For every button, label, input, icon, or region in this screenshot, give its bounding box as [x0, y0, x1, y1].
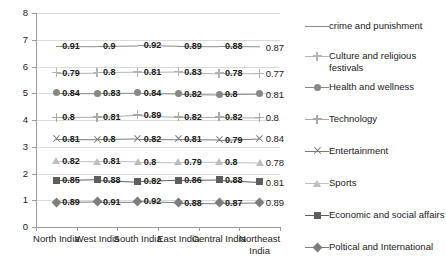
legend-label: Culture and religious festivals — [329, 50, 446, 73]
y-tick-label: 0 — [6, 222, 28, 232]
legend-label: Technology — [329, 113, 377, 125]
legend-key-swatch — [305, 82, 329, 93]
legend-key-swatch — [305, 242, 329, 253]
legend-key-swatch — [305, 114, 329, 125]
legend-item[interactable]: Technology — [305, 113, 377, 125]
legend-item[interactable]: Entertainment — [305, 145, 388, 157]
legend-item[interactable]: Economic and social affairs — [305, 209, 444, 221]
legend-key-swatch — [305, 178, 329, 189]
diamond-marker-icon — [255, 197, 265, 207]
y-tick-label: 1 — [6, 195, 28, 205]
diamond-marker-icon — [173, 198, 183, 208]
legend-key-swatch — [305, 210, 329, 221]
plus-marker-icon — [314, 53, 321, 60]
x-tick-mark — [158, 227, 159, 231]
plus-marker-icon — [314, 116, 321, 123]
diamond-marker-icon — [133, 197, 143, 207]
x-tick-mark — [239, 227, 240, 231]
chart-legend: crime and punishmentCulture and religiou… — [305, 6, 446, 271]
triangle-marker-icon — [313, 180, 321, 187]
diamond-marker-icon — [214, 198, 224, 208]
y-tick-label: 2 — [6, 169, 28, 179]
legend-key-swatch — [305, 51, 329, 62]
legend-item[interactable]: Culture and religious festivals — [305, 50, 446, 73]
legend-label: crime and punishment — [329, 20, 422, 32]
x-tick-label: Northeast India — [232, 233, 288, 256]
data-label: 0.91 — [103, 198, 121, 207]
legend-item[interactable]: Sports — [305, 177, 356, 189]
legend-item[interactable]: Health and wellness — [305, 81, 414, 93]
legend-item[interactable]: Poltical and International — [305, 241, 433, 253]
data-label: 0.89 — [62, 198, 80, 207]
circle-marker-icon — [314, 84, 321, 91]
legend-label: Entertainment — [329, 145, 388, 157]
legend-label: Economic and social affairs — [329, 209, 444, 221]
data-label: 0.89 — [266, 198, 285, 207]
y-tick-label: 8 — [6, 8, 28, 18]
x-tick-mark — [117, 227, 118, 231]
y-tick-label: 4 — [6, 115, 28, 125]
data-label: 0.88 — [184, 199, 202, 208]
square-marker-icon — [314, 212, 321, 219]
legend-item[interactable]: crime and punishment — [305, 20, 422, 32]
legend-key-swatch — [305, 146, 329, 157]
series-line: 0.890.910.920.880.870.89 — [36, 13, 280, 227]
legend-label: Health and wellness — [329, 81, 414, 93]
y-tick-label: 7 — [6, 35, 28, 45]
plot-area: 0.910.90.920.890.880.870.790.80.810.830.… — [36, 13, 280, 227]
y-tick-label: 6 — [6, 62, 28, 72]
x-tick-mark — [77, 227, 78, 231]
data-label: 0.87 — [225, 199, 243, 208]
x-tick-mark — [199, 227, 200, 231]
diamond-marker-icon — [312, 242, 322, 252]
diamond-marker-icon — [51, 197, 61, 207]
y-tick-label: 3 — [6, 142, 28, 152]
x-tick-mark — [36, 227, 37, 231]
legend-key-swatch — [305, 21, 329, 32]
legend-label: Poltical and International — [329, 241, 433, 253]
x-marker-icon — [314, 148, 321, 155]
y-tick-label: 5 — [6, 88, 28, 98]
x-tick-mark — [280, 227, 281, 231]
line-chart: 012345678 0.910.90.920.890.880.870.790.8… — [0, 0, 446, 275]
legend-label: Sports — [329, 177, 356, 189]
data-label: 0.92 — [144, 197, 162, 206]
legend-line-icon — [305, 26, 329, 27]
diamond-marker-icon — [92, 197, 102, 207]
